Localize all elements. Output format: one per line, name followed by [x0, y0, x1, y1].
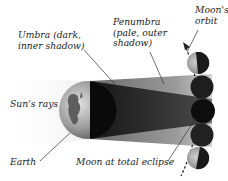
moon-partial-bottom [187, 147, 209, 169]
moon-total-eclipse-label: Moon at total eclipse [76, 157, 174, 168]
suns-rays-label: Sun's rays [10, 99, 58, 110]
penumbra-label: Penumbra (pale, outer shadow) [113, 17, 167, 49]
earth-label: Earth [10, 157, 36, 168]
moon-penumbral-lower [191, 124, 214, 147]
moon-partial-top [187, 52, 209, 74]
lunar-eclipse-diagram: Umbra (dark, inner shadow) Penumbra (pal… [0, 0, 228, 181]
moon-total-eclipse [191, 99, 215, 123]
moons-orbit-label: Moon's orbit [195, 5, 228, 26]
umbra-label: Umbra (dark, inner shadow) [18, 30, 85, 51]
moon-penumbral-upper [191, 76, 214, 99]
